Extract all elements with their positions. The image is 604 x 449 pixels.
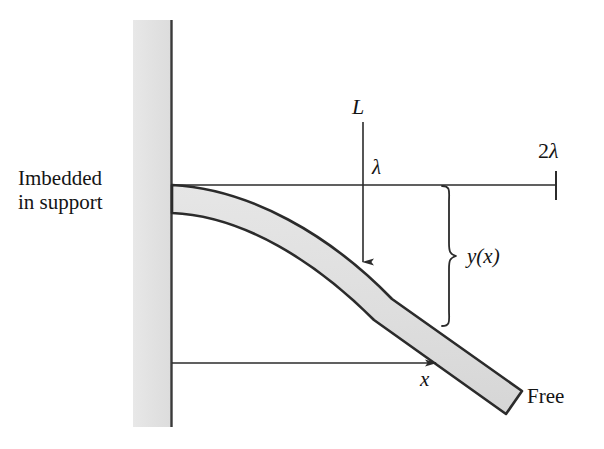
deflection-label: y(x)	[467, 244, 500, 268]
cantilever-beam-figure: Imbedded in support L λ 2λ y(x) x Free	[0, 0, 604, 449]
x-axis-label: x	[420, 367, 429, 391]
two-lambda-symbol: λ	[549, 138, 559, 163]
support-wall	[133, 20, 172, 427]
support-label: Imbedded in support	[18, 166, 103, 214]
cantilever-beam	[172, 185, 522, 414]
support-label-line2: in support	[18, 190, 103, 214]
figure-canvas	[0, 0, 604, 449]
support-label-line1: Imbedded	[18, 166, 102, 190]
two-lambda-number: 2	[538, 138, 549, 163]
deflection-brace	[442, 186, 456, 326]
free-end-label: Free	[527, 384, 564, 408]
two-lambda-label: 2λ	[538, 138, 559, 163]
load-label: L	[352, 94, 364, 119]
lambda-label: λ	[372, 155, 381, 179]
